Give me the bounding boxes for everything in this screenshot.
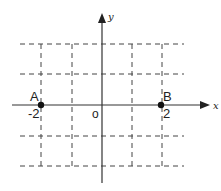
y-axis-label: y xyxy=(107,11,114,22)
point-b-value-label: 2 xyxy=(163,106,170,121)
x-axis-arrow-icon xyxy=(200,101,210,109)
point-a-label: A xyxy=(30,89,39,104)
x-axis-label: x xyxy=(213,100,219,111)
coordinate-plane-diagram: x y o A -2 B 2 xyxy=(0,0,221,191)
y-axis-arrow-icon xyxy=(98,13,106,23)
point-b-label: B xyxy=(163,89,172,104)
point-a-value-label: -2 xyxy=(28,106,40,121)
origin-label: o xyxy=(92,107,99,121)
